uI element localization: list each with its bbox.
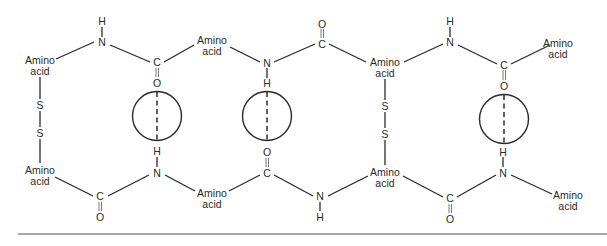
- hydrogen-bond-2: [243, 92, 292, 142]
- sulfur-atom: S: [381, 128, 388, 140]
- amino-acid-label: acid: [558, 200, 577, 212]
- oxygen-atom: O: [96, 211, 104, 223]
- hydrogen-atom: H: [499, 146, 507, 158]
- beta-sheet-diagram: Amino acid H N C O Amino acid N H O C Am…: [0, 0, 607, 246]
- oxygen-atom: O: [446, 213, 454, 225]
- nitrogen-atom: N: [316, 190, 324, 202]
- oxygen-atom: O: [318, 18, 326, 30]
- disulfide-bonds: [40, 77, 385, 165]
- amino-acid-label: acid: [30, 175, 49, 187]
- hydrogen-atom: H: [446, 15, 454, 27]
- top-chain-bonds: [56, 42, 550, 64]
- sulfur-atom: S: [381, 100, 388, 112]
- oxygen-atom: O: [263, 146, 271, 158]
- oxygen-atom: O: [500, 80, 508, 92]
- nitrogen-atom: N: [153, 167, 161, 179]
- bottom-chain-bonds: [55, 175, 552, 197]
- amino-acid-label: acid: [375, 67, 394, 79]
- amino-acid-label: acid: [202, 198, 221, 210]
- nitrogen-atom: N: [263, 57, 271, 69]
- substituent-bonds: [99, 27, 506, 213]
- sulfur-atom: S: [36, 127, 43, 139]
- top-chain-labels: Amino acid H N C O Amino acid N H O C Am…: [25, 15, 573, 92]
- hydrogen-atom: H: [316, 211, 324, 223]
- amino-acid-label: acid: [202, 45, 221, 57]
- hydrogen-bond-1: [133, 92, 182, 142]
- amino-acid-label: acid: [375, 177, 394, 189]
- carbon-atom: C: [153, 56, 161, 68]
- hydrogen-bond-3: [480, 95, 529, 145]
- amino-acid-label: acid: [30, 65, 49, 77]
- hydrogen-atom: H: [263, 77, 271, 89]
- nitrogen-atom: N: [98, 36, 106, 48]
- carbon-atom: C: [318, 38, 326, 50]
- sulfur-atom: S: [36, 99, 43, 111]
- carbon-atom: C: [96, 190, 104, 202]
- amino-acid-label: acid: [548, 48, 567, 60]
- hydrogen-atom: H: [98, 15, 106, 27]
- carbon-atom: C: [263, 167, 271, 179]
- bottom-chain-labels: Amino acid C O H N Amino acid O C N H Am…: [25, 145, 583, 225]
- nitrogen-atom: N: [446, 36, 454, 48]
- nitrogen-atom: N: [499, 167, 507, 179]
- hydrogen-atom: H: [153, 145, 161, 157]
- carbon-atom: C: [500, 59, 508, 71]
- carbon-atom: C: [446, 192, 454, 204]
- disulfide-labels: S S S S: [36, 99, 388, 140]
- oxygen-atom: O: [153, 77, 161, 89]
